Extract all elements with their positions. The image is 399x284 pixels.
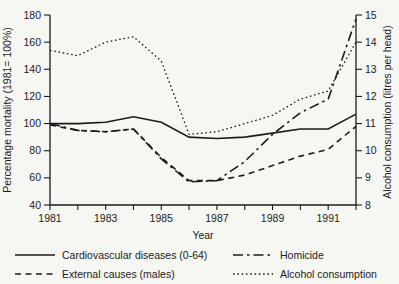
right-axis-tick-label: 13 [365,63,377,75]
right-axis-tick-label: 12 [365,90,377,102]
axis-frame [50,15,356,205]
left-axis-title: Percentage mortality (1981= 100%) [1,27,13,192]
left-axis-tick-label: 120 [23,90,41,102]
x-axis-tick-label: 1983 [94,212,118,224]
dashed-line-sample-icon [14,269,56,279]
right-axis-tick-label: 15 [365,9,377,21]
legend-label-homicide: Homicide [280,249,324,261]
right-axis-tick-label: 9 [365,171,371,183]
right-axis-title: Alcohol consumption (litres per head) [381,25,393,198]
x-axis-tick-label: 1981 [38,212,62,224]
dotted-line-sample-icon [232,269,274,279]
left-axis-tick-label: 60 [29,171,41,183]
legend-label-cardiovascular: Cardiovascular diseases (0-64) [62,249,207,261]
series-line-2 [50,19,356,182]
x-axis-tick-label: 1989 [261,212,285,224]
x-axis-title: Year [50,229,356,241]
left-axis-tick-label: 140 [23,63,41,75]
line-chart-canvas: 4060801001201401601808910111213141519811… [0,0,399,244]
x-axis-tick-label: 1987 [205,212,229,224]
left-axis-tick-label: 180 [23,9,41,21]
dashdot-line-sample-icon [232,250,274,260]
right-axis-tick-label: 14 [365,36,377,48]
legend-item-homicide: Homicide [232,249,392,261]
chart-legend: Cardiovascular diseases (0-64) Homicide … [14,245,392,283]
left-axis-tick-label: 160 [23,36,41,48]
legend-label-alcohol: Alcohol consumption [280,268,377,280]
series-line-3 [50,37,356,135]
x-axis-tick-label: 1991 [317,212,341,224]
mortality-alcohol-line-chart-figure: 4060801001201401601808910111213141519811… [0,0,399,284]
x-axis-tick-label: 1985 [150,212,174,224]
legend-item-alcohol: Alcohol consumption [232,268,392,280]
left-axis-tick-label: 100 [23,117,41,129]
left-axis-tick-label: 40 [29,199,41,211]
legend-item-external-causes: External causes (males) [14,268,232,280]
right-axis-tick-label: 11 [365,117,376,129]
right-axis-tick-label: 8 [365,199,371,211]
legend-label-external-causes: External causes (males) [62,268,175,280]
series-line-1 [50,125,356,181]
series-line-0 [50,114,356,138]
right-axis-tick-label: 10 [365,144,377,156]
solid-line-sample-icon [14,250,56,260]
legend-item-cardiovascular: Cardiovascular diseases (0-64) [14,249,232,261]
left-axis-tick-label: 80 [29,144,41,156]
